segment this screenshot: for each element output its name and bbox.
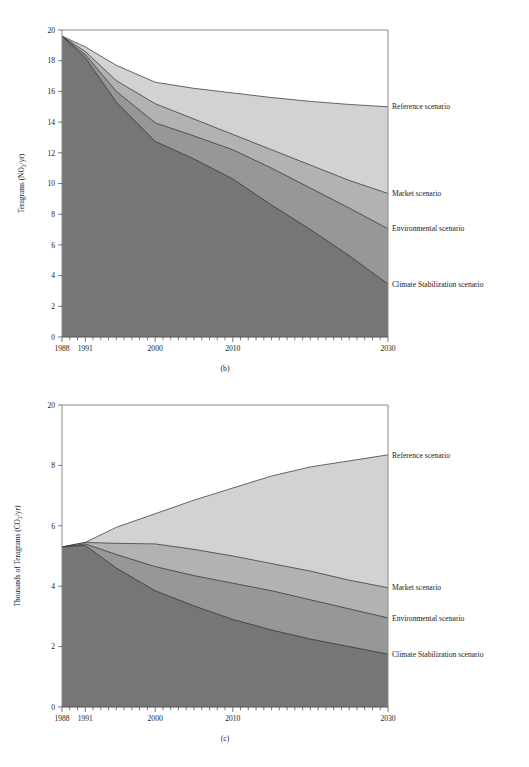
series-annotation-market-scenario: Market scenario: [392, 189, 441, 198]
series-annotation-environmental-scenario: Environmental scenario: [392, 224, 465, 233]
y-tick-label: 16: [47, 87, 55, 96]
x-tick-label: 1988: [54, 344, 69, 353]
y-tick-label: 0: [51, 333, 55, 342]
y-tick-label: 8: [51, 461, 55, 470]
y-axis-title: Teragrams (NO2/yr): [17, 153, 27, 213]
x-tick-label: 2030: [380, 714, 395, 723]
y-tick-label: 12: [47, 149, 55, 158]
x-tick-label: 1991: [78, 714, 93, 723]
y-tick-label: 14: [47, 118, 55, 127]
series-annotation-environmental-scenario: Environmental scenario: [392, 614, 465, 623]
x-tick-label: 1991: [78, 344, 93, 353]
panel-subcaption: (b): [221, 364, 230, 373]
y-tick-label: 20: [47, 26, 55, 35]
y-tick-label: 8: [51, 210, 55, 219]
y-tick-label: 0: [51, 703, 55, 712]
x-tick-label: 2010: [225, 714, 240, 723]
panel-c-chart: 024682019881991200020102030Thousands of …: [0, 383, 529, 767]
y-tick-label: 4: [51, 582, 55, 591]
series-annotation-market-scenario: Market scenario: [392, 583, 441, 592]
series-annotation-reference-scenario: Reference scenario: [392, 102, 450, 111]
y-tick-label: 10: [47, 179, 55, 188]
series-annotation-climate-stabilization-scenario: Climate Stabilization scenario: [392, 280, 484, 289]
panel-b-chart: 0246810121416182019881991200020102030Ter…: [0, 0, 529, 383]
y-tick-label: 4: [51, 271, 55, 280]
y-tick-label: 20: [47, 401, 55, 410]
y-tick-label: 2: [51, 642, 55, 651]
y-tick-label: 6: [51, 522, 55, 531]
y-tick-label: 6: [51, 241, 55, 250]
x-tick-label: 2010: [225, 344, 240, 353]
y-tick-label: 18: [47, 56, 55, 65]
x-tick-label: 1988: [54, 714, 69, 723]
x-tick-label: 2000: [148, 344, 163, 353]
panel-subcaption: (c): [221, 734, 230, 743]
y-axis-title: Thousands of Teragrams (CO2/yr): [13, 505, 23, 606]
x-tick-label: 2000: [148, 714, 163, 723]
panel-b-figure: 0246810121416182019881991200020102030Ter…: [0, 0, 529, 383]
series-annotation-reference-scenario: Reference scenario: [392, 451, 450, 460]
series-annotation-climate-stabilization-scenario: Climate Stabilization scenario: [392, 650, 484, 659]
panel-c-figure: 024682019881991200020102030Thousands of …: [0, 383, 529, 767]
y-tick-label: 2: [51, 302, 55, 311]
x-tick-label: 2030: [380, 344, 395, 353]
